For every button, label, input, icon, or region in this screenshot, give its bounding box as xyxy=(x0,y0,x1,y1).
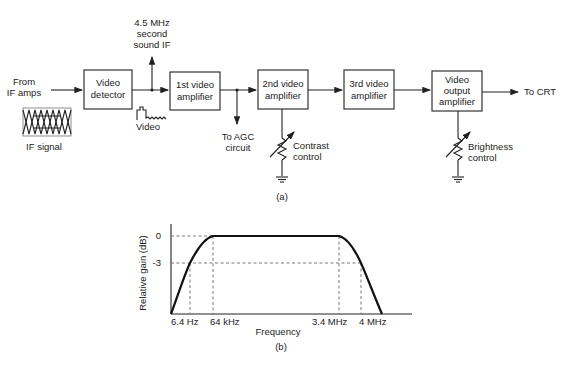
sound-if-label-1: 4.5 MHz xyxy=(134,17,170,28)
block-video-detector-line1: Video xyxy=(96,77,120,88)
block-2nd-line1: 2nd video xyxy=(262,78,303,89)
block-video-detector-line2: detector xyxy=(91,89,125,100)
x-tick-6-4hz: 6.4 Hz xyxy=(171,316,199,327)
contrast-label-1: Contrast xyxy=(293,140,329,151)
if-signal-waveform-icon xyxy=(23,108,71,136)
video-waveform-icon xyxy=(137,107,166,120)
brightness-potentiometer-icon xyxy=(446,111,470,182)
input-label-from: From xyxy=(13,76,35,87)
block-output-line1: Video xyxy=(445,74,469,85)
video-wave-label: Video xyxy=(136,121,160,132)
y-axis-label: Relative gain (dB) xyxy=(137,235,148,311)
caption-b: (b) xyxy=(275,341,287,352)
x-tick-3-4mhz: 3.4 MHz xyxy=(312,316,348,327)
agc-label-2: circuit xyxy=(226,142,251,153)
block-3rd-line1: 3rd video xyxy=(349,78,388,89)
sound-if-label-2: second xyxy=(137,28,168,39)
block-output-line3: amplifier xyxy=(439,96,475,107)
brightness-label-1: Brightness xyxy=(468,141,513,152)
block-2nd-line2: amplifier xyxy=(265,90,301,101)
contrast-label-2: control xyxy=(293,151,322,162)
block-1st-line2: amplifier xyxy=(177,91,213,102)
x-tick-64khz: 64 kHz xyxy=(210,316,240,327)
y-tick-0: 0 xyxy=(156,230,161,241)
block-diagram: From IF amps IF signal Video detector 4.… xyxy=(7,17,556,202)
sound-if-label-3: sound IF xyxy=(134,39,171,50)
x-axis-label: Frequency xyxy=(256,326,301,337)
block-1st-line1: 1st video xyxy=(176,79,214,90)
response-curve xyxy=(171,236,382,314)
to-crt-label: To CRT xyxy=(524,86,556,97)
x-tick-4mhz: 4 MHz xyxy=(359,316,387,327)
brightness-label-2: control xyxy=(468,152,497,163)
input-label-if-amps: IF amps xyxy=(7,87,42,98)
block-3rd-line2: amplifier xyxy=(351,90,387,101)
video-amplifier-diagram: From IF amps IF signal Video detector 4.… xyxy=(0,0,578,368)
block-output-line2: output xyxy=(444,85,471,96)
agc-label-1: To AGC xyxy=(222,131,255,142)
contrast-potentiometer-icon xyxy=(270,109,294,182)
frequency-response-chart: 0 -3 Relative gain (dB) 6.4 Hz 64 kHz 3.… xyxy=(137,224,412,352)
caption-a: (a) xyxy=(276,191,288,202)
if-signal-label: IF signal xyxy=(26,141,62,152)
y-tick-minus3: -3 xyxy=(153,257,161,268)
